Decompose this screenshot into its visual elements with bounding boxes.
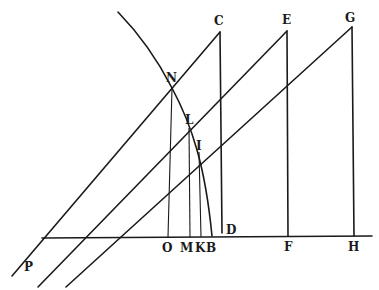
label-b: B [206,241,216,255]
line-cd [220,32,222,233]
label-o: O [162,241,172,255]
label-g: G [345,11,355,25]
label-l: L [185,113,194,127]
label-i: I [196,139,202,153]
line-lm [189,128,190,237]
label-c: C [214,14,224,28]
arc-curve [118,12,212,236]
line-no [168,88,172,237]
diagram-canvas: C E G N L I D O M K B F H P [0,0,379,290]
label-d: D [226,223,236,237]
baseline [42,236,372,238]
label-h: H [348,240,359,254]
label-m: M [180,241,193,255]
line-ef [287,31,288,236]
label-e: E [282,13,291,27]
label-p: P [24,260,33,274]
label-f: F [284,240,293,254]
label-n: N [166,71,177,85]
line-gh [352,27,354,236]
geometry-figure: C E G N L I D O M K B F H P [0,0,379,290]
label-k: K [195,241,206,255]
